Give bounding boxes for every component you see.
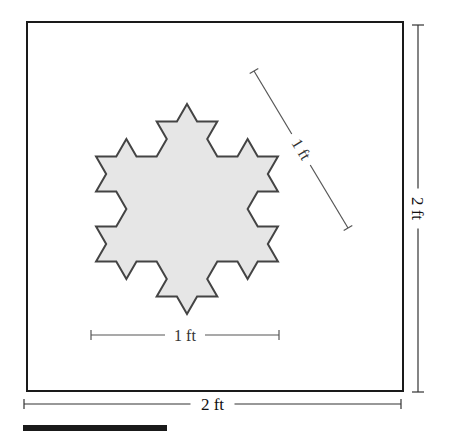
dimension-label-1ft-horizontal: 1 ft [174,327,196,344]
dimension-label-1ft-diagonal: 1 ft [289,136,315,164]
koch-snowflake-figure: 1 ft 1 ft 2 ft 2 ft [0,0,449,431]
dimension-label-2ft-vertical: 2 ft [408,197,427,220]
koch-snowflake [96,104,278,314]
dimension-label-2ft-horizontal: 2 ft [201,395,224,414]
black-bar [23,425,167,431]
